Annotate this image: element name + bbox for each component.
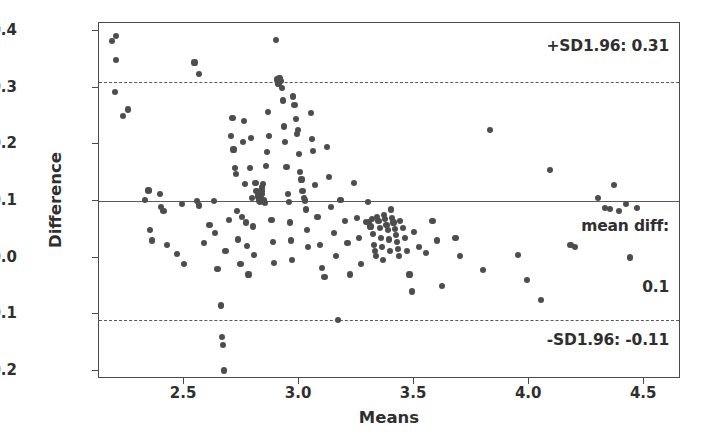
scatter-point — [358, 261, 364, 267]
scatter-point — [393, 232, 399, 238]
x-tick-label: 2.5 — [153, 384, 213, 402]
scatter-point — [319, 265, 325, 271]
scatter-point — [404, 248, 410, 254]
scatter-point — [299, 188, 305, 194]
scatter-point — [229, 115, 235, 121]
scatter-point — [228, 133, 234, 139]
scatter-point — [260, 181, 266, 187]
scatter-point — [283, 164, 289, 170]
scatter-point — [324, 144, 330, 150]
scatter-point — [271, 260, 277, 266]
scatter-point — [240, 139, 246, 145]
scatter-point — [113, 57, 119, 63]
scatter-point — [351, 180, 357, 186]
scatter-point — [290, 93, 296, 99]
scatter-point — [247, 165, 253, 171]
scatter-point — [234, 208, 240, 214]
scatter-point — [112, 89, 118, 95]
scatter-point — [312, 182, 318, 188]
scatter-point — [386, 236, 392, 242]
scatter-point — [400, 225, 406, 231]
scatter-point — [196, 202, 202, 208]
scatter-point — [273, 37, 279, 43]
scatter-point — [212, 230, 218, 236]
scatter-point — [429, 218, 435, 224]
scatter-point — [251, 252, 257, 258]
scatter-point — [219, 334, 225, 340]
scatter-point — [337, 197, 343, 203]
scatter-point — [206, 222, 212, 228]
scatter-point — [354, 215, 360, 221]
scatter-point — [222, 248, 228, 254]
scatter-point — [367, 223, 373, 229]
x-tick-label: 4.0 — [498, 384, 558, 402]
scatter-point — [241, 118, 247, 124]
scatter-point — [244, 243, 250, 249]
scatter-point — [305, 244, 311, 250]
x-tick-mark — [643, 378, 644, 384]
scatter-point — [214, 266, 220, 272]
scatter-point — [402, 235, 408, 241]
scatter-point — [394, 239, 400, 245]
scatter-point — [263, 163, 269, 169]
scatter-point — [396, 253, 402, 259]
x-tick-label: 3.0 — [268, 384, 328, 402]
scatter-point — [423, 250, 429, 256]
y-tick-label: −0.2 — [0, 361, 17, 379]
scatter-point — [388, 206, 394, 212]
scatter-point — [145, 187, 151, 193]
scatter-point — [333, 253, 339, 259]
scatter-point — [380, 257, 386, 263]
x-tick-mark — [413, 378, 414, 384]
scatter-point — [157, 191, 163, 197]
scatter-point — [385, 227, 391, 233]
scatter-point — [237, 261, 243, 267]
scatter-point — [344, 240, 350, 246]
scatter-point — [406, 271, 412, 277]
scatter-point — [397, 218, 403, 224]
scatter-point — [270, 239, 276, 245]
scatter-point — [268, 217, 274, 223]
scatter-point — [317, 242, 323, 248]
scatter-point — [356, 235, 362, 241]
scatter-point — [179, 201, 185, 207]
upper-loa-line — [99, 82, 679, 83]
scatter-point — [309, 136, 315, 142]
scatter-point — [211, 198, 217, 204]
scatter-point — [326, 174, 332, 180]
mean-diff-annotation-line2: 0.1 — [581, 277, 669, 297]
scatter-point — [296, 151, 302, 157]
scatter-point — [314, 214, 320, 220]
upper-loa-annotation: +SD1.96: 0.31 — [547, 37, 670, 55]
scatter-point — [147, 227, 153, 233]
scatter-point — [191, 59, 197, 65]
scatter-point — [218, 302, 224, 308]
y-tick-label: 0.3 — [0, 78, 17, 96]
scatter-point — [109, 38, 115, 44]
x-tick-mark — [528, 378, 529, 384]
scatter-point — [342, 218, 348, 224]
scatter-point — [220, 342, 226, 348]
scatter-point — [242, 181, 248, 187]
scatter-point — [390, 219, 396, 225]
scatter-point — [164, 242, 170, 248]
scatter-point — [125, 106, 131, 112]
scatter-point — [278, 78, 284, 84]
scatter-point — [515, 252, 521, 258]
scatter-point — [160, 208, 166, 214]
y-tick-label: 0.4 — [0, 21, 17, 39]
scatter-point — [249, 195, 255, 201]
x-tick-mark — [183, 378, 184, 384]
scatter-point — [262, 200, 268, 206]
scatter-point — [226, 217, 232, 223]
scatter-point — [298, 176, 304, 182]
scatter-point — [295, 127, 301, 133]
scatter-point — [347, 271, 353, 277]
x-tick-mark — [298, 378, 299, 384]
x-tick-label: 3.5 — [383, 384, 443, 402]
scatter-point — [113, 33, 119, 39]
y-tick-label: 0.0 — [0, 248, 17, 266]
scatter-point — [293, 116, 299, 122]
scatter-point — [416, 244, 422, 250]
scatter-point — [308, 110, 314, 116]
